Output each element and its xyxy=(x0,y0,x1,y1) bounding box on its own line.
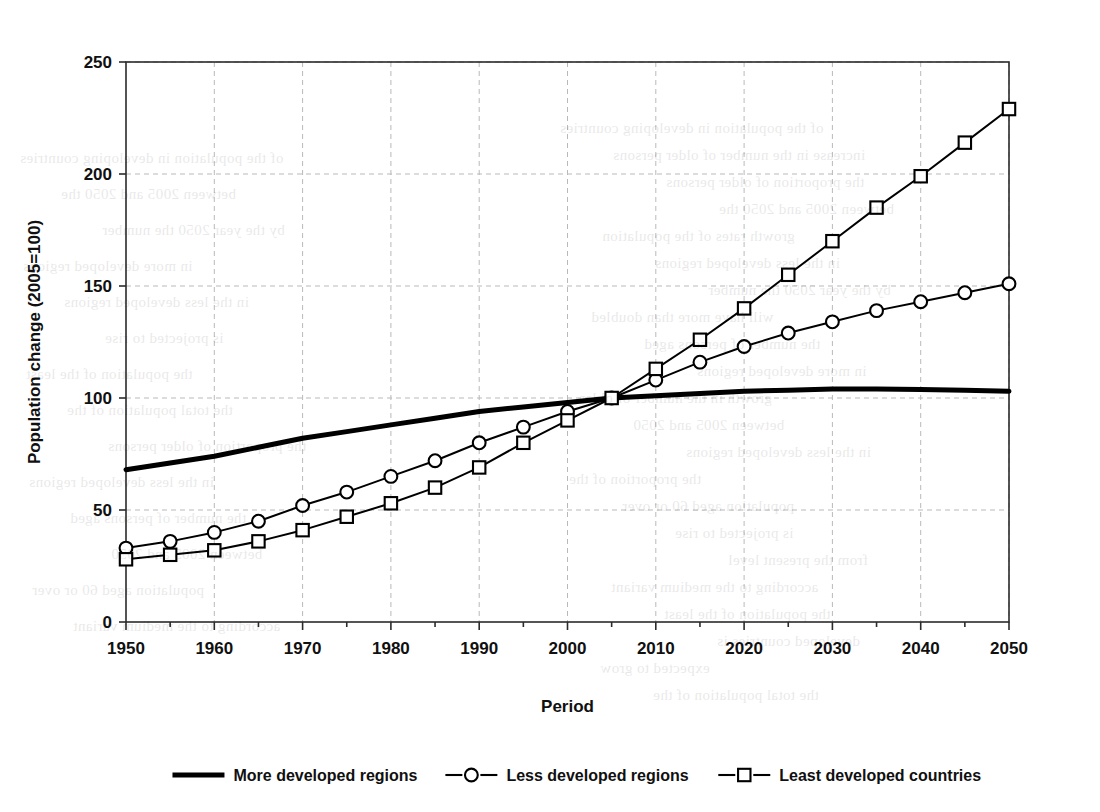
data-point-marker-square xyxy=(738,769,750,781)
x-axis-tick-label: 1950 xyxy=(107,639,145,658)
x-axis-tick-label: 2010 xyxy=(637,639,675,658)
data-point-marker-circle xyxy=(517,421,530,434)
data-point-marker-circle xyxy=(870,304,883,317)
x-axis-tick-label: 1970 xyxy=(284,639,322,658)
data-point-marker-circle xyxy=(694,356,707,369)
data-point-marker-square xyxy=(473,461,485,473)
data-point-marker-circle xyxy=(782,327,795,340)
data-point-marker-square xyxy=(826,235,838,247)
x-axis-tick-label: 2050 xyxy=(990,639,1028,658)
y-axis-title: Population change (2005=100) xyxy=(25,220,44,464)
legend-label: More developed regions xyxy=(233,767,417,784)
data-point-marker-square xyxy=(252,535,264,547)
data-point-marker-square xyxy=(870,201,882,213)
data-point-marker-circle xyxy=(473,436,486,449)
series-0 xyxy=(126,389,1009,470)
data-point-marker-square xyxy=(561,414,573,426)
data-point-marker-circle xyxy=(738,340,751,353)
data-point-marker-circle xyxy=(340,486,353,499)
data-point-marker-circle xyxy=(958,286,971,299)
data-point-marker-circle xyxy=(914,295,927,308)
population-change-line-chart: 0501001502002501950196019701980199020002… xyxy=(0,0,1100,812)
x-axis-tick-label: 2040 xyxy=(902,639,940,658)
legend-item-1[interactable]: Less developed regions xyxy=(445,767,688,784)
data-point-marker-square xyxy=(738,302,750,314)
y-axis-tick-label: 50 xyxy=(93,501,112,520)
x-axis-tick-label: 2020 xyxy=(725,639,763,658)
x-axis-tick-label: 2030 xyxy=(813,639,851,658)
data-point-marker-circle xyxy=(465,769,478,782)
data-point-marker-square xyxy=(120,553,132,565)
chart-legend: More developed regionsLess developed reg… xyxy=(172,767,981,784)
data-point-marker-circle xyxy=(1003,277,1016,290)
data-point-marker-circle xyxy=(385,470,398,483)
legend-label: Least developed countries xyxy=(779,767,981,784)
data-point-marker-square xyxy=(429,481,441,493)
data-point-marker-circle xyxy=(252,515,265,528)
data-point-marker-square xyxy=(164,549,176,561)
legend-item-2[interactable]: Least developed countries xyxy=(718,767,981,784)
x-axis-tick-label: 1960 xyxy=(195,639,233,658)
y-axis-tick-label: 200 xyxy=(84,165,112,184)
chart-figure: of the population in developing countrie… xyxy=(0,0,1100,812)
data-point-marker-circle xyxy=(164,535,177,548)
data-point-marker-square xyxy=(959,136,971,148)
legend-item-0[interactable]: More developed regions xyxy=(172,767,417,784)
data-point-marker-circle xyxy=(429,454,442,467)
y-axis-tick-label: 0 xyxy=(103,613,112,632)
data-point-marker-circle xyxy=(826,315,839,328)
x-axis-tick-label: 1980 xyxy=(372,639,410,658)
data-point-marker-square xyxy=(605,392,617,404)
data-point-marker-circle xyxy=(296,499,309,512)
data-point-marker-square xyxy=(1003,103,1015,115)
data-point-marker-square xyxy=(694,334,706,346)
y-axis-tick-label: 150 xyxy=(84,277,112,296)
x-axis-title: Period xyxy=(541,697,594,716)
data-point-marker-square xyxy=(650,363,662,375)
x-axis-tick-label: 1990 xyxy=(460,639,498,658)
data-point-marker-square xyxy=(915,170,927,182)
x-axis-tick-label: 2000 xyxy=(549,639,587,658)
data-point-marker-square xyxy=(782,269,794,281)
y-axis-tick-label: 100 xyxy=(84,389,112,408)
data-point-marker-square xyxy=(296,524,308,536)
data-point-marker-square xyxy=(517,437,529,449)
data-point-marker-square xyxy=(385,497,397,509)
data-point-marker-square xyxy=(208,544,220,556)
series-line xyxy=(126,389,1009,470)
legend-label: Less developed regions xyxy=(506,767,688,784)
data-point-marker-circle xyxy=(208,526,221,539)
data-point-marker-square xyxy=(341,511,353,523)
y-axis-tick-label: 250 xyxy=(84,53,112,72)
